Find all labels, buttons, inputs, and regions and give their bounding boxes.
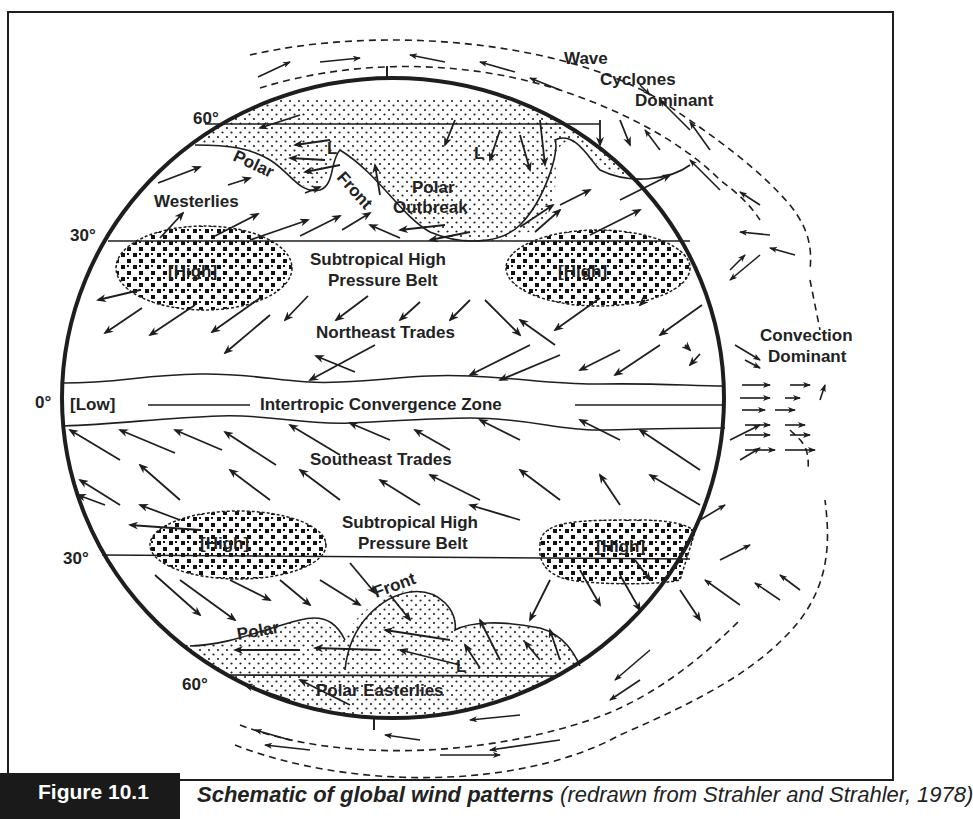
north-polar-region: [60, 100, 760, 241]
label-low: [Low]: [70, 395, 115, 414]
label-high-nw: [High]: [168, 262, 217, 281]
label-itcz: Intertropic Convergence Zone: [260, 395, 502, 414]
lat-30s: 30°: [63, 549, 89, 568]
lat-60s: 60°: [182, 675, 208, 694]
caption-source: (redrawn from Strahler and Strahler, 197…: [560, 782, 973, 807]
figure-caption: Schematic of global wind patterns (redra…: [197, 783, 902, 807]
label-high-ne: [High]: [558, 262, 607, 281]
lat-30n: 30°: [70, 226, 96, 245]
label-high-sw: [High]: [200, 534, 249, 553]
label-stp-south-2: Pressure Belt: [358, 534, 468, 553]
label-convection: Convection: [760, 326, 853, 345]
caption-title: Schematic of global wind patterns: [197, 782, 554, 807]
lat-0: 0°: [35, 393, 51, 412]
label-low-l3: L: [456, 657, 466, 676]
label-se-trades: Southeast Trades: [310, 450, 452, 469]
label-westerlies: Westerlies: [154, 192, 239, 211]
label-polar-outbreak-1: Polar: [412, 178, 455, 197]
label-dominant-right: Dominant: [768, 347, 847, 366]
label-low-l1: L: [327, 139, 337, 158]
label-dominant-top: Dominant: [635, 91, 714, 110]
label-polar-outbreak-2: Outbreak: [393, 198, 468, 217]
label-polar-easterlies: Polar Easterlies: [316, 681, 444, 700]
lat-60n: 60°: [193, 109, 219, 128]
label-stp-south-1: Subtropical High: [342, 513, 478, 532]
figure-number: Figure 10.1: [0, 773, 180, 819]
label-stp-north-2: Pressure Belt: [328, 271, 438, 290]
label-high-se: [High]: [596, 537, 645, 556]
label-ne-trades: Northeast Trades: [316, 323, 455, 342]
label-wave: Wave: [564, 49, 608, 68]
label-low-l2: L: [474, 144, 484, 163]
label-stp-north-1: Subtropical High: [310, 250, 446, 269]
label-cyclones: Cyclones: [600, 70, 676, 89]
